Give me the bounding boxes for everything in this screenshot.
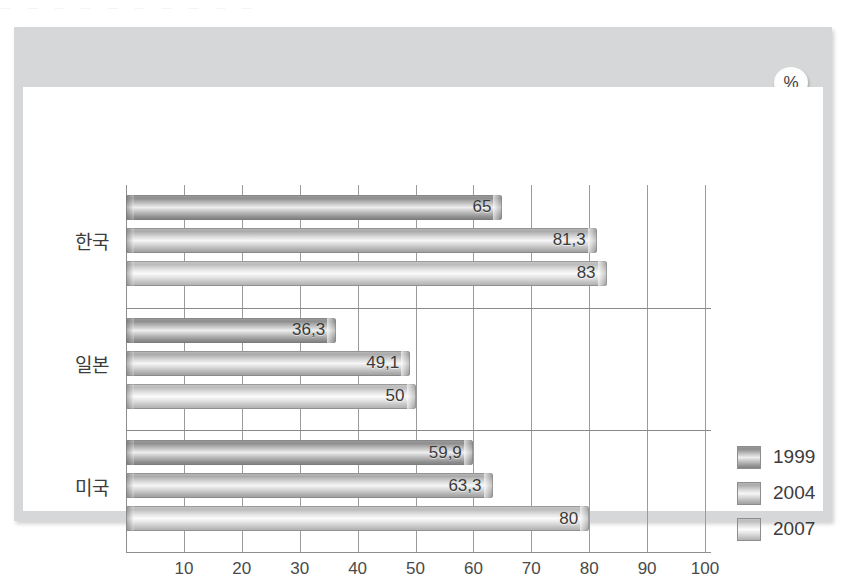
bar-value-label: 65 [472, 197, 502, 217]
bar-2004-미국[interactable]: 63,3 [126, 473, 493, 498]
category-label-한국: 한국 [59, 227, 125, 254]
bar-1999-한국[interactable]: 65 [126, 195, 502, 220]
legend-swatch-2007 [737, 518, 761, 541]
x-tick-label-100: 100 [691, 559, 719, 578]
bar-value-label: 80 [559, 509, 589, 529]
legend-item-2007[interactable]: 2007 [737, 511, 815, 547]
legend-swatch-1999 [737, 446, 761, 469]
x-tick-label-60: 60 [464, 559, 483, 578]
legend-item-2004[interactable]: 2004 [737, 475, 815, 511]
bar-value-label: 36,3 [292, 320, 336, 340]
x-tick-label-90: 90 [638, 559, 657, 578]
bar-value-label: 63,3 [448, 476, 492, 496]
x-tick-label-80: 80 [580, 559, 599, 578]
x-tick-label-10: 10 [174, 559, 193, 578]
gridline-100 [705, 185, 706, 553]
bar-2004-한국[interactable]: 81,3 [126, 228, 597, 253]
chart-panel: 1020304050607080901006581,38336,349,1505… [23, 87, 823, 511]
bar-2007-일본[interactable]: 50 [126, 384, 416, 409]
category-label-일본: 일본 [59, 350, 125, 377]
bar-value-label: 59,9 [429, 443, 473, 463]
bar-2007-미국[interactable]: 80 [126, 506, 589, 531]
group-separator [126, 430, 711, 431]
legend-label: 2007 [773, 518, 815, 540]
group-separator [126, 308, 711, 309]
gridline-90 [647, 185, 648, 553]
category-label-미국: 미국 [59, 473, 125, 500]
legend-item-1999[interactable]: 1999 [737, 439, 815, 475]
x-tick-label-20: 20 [232, 559, 251, 578]
x-tick-label-40: 40 [348, 559, 367, 578]
bar-value-label: 50 [386, 386, 416, 406]
bar-2007-한국[interactable]: 83 [126, 261, 607, 286]
legend-label: 2004 [773, 482, 815, 504]
bar-value-label: 81,3 [553, 230, 597, 250]
chart-legend: 199920042007 [737, 439, 815, 547]
plot-area: 1020304050607080901006581,38336,349,1505… [126, 185, 705, 553]
chart-card: % 1020304050607080901006581,38336,349,15… [14, 27, 832, 521]
bar-value-label: 83 [577, 263, 607, 283]
bar-1999-일본[interactable]: 36,3 [126, 318, 336, 343]
legend-label: 1999 [773, 446, 815, 468]
legend-swatch-2004 [737, 482, 761, 505]
bar-2004-일본[interactable]: 49,1 [126, 351, 410, 376]
bar-value-label: 49,1 [366, 353, 410, 373]
top-edge-artifact-text: ㅡ ㅡ ㅡ ㅡ ㅡ ㅡ ㅡ ㅡ ㅡ ㅡ [0, 0, 846, 14]
x-tick-label-70: 70 [522, 559, 541, 578]
bar-1999-미국[interactable]: 59,9 [126, 440, 473, 465]
x-tick-label-50: 50 [406, 559, 425, 578]
x-axis-line [126, 552, 711, 553]
x-tick-label-30: 30 [290, 559, 309, 578]
